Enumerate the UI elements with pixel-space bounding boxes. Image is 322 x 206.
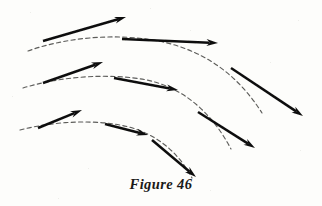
velocity-vectors-layer [38,17,303,177]
vector-1-1 [43,17,126,41]
vector-2-1-shaft [43,65,95,83]
vector-2-2 [114,78,178,91]
vector-2-3 [198,112,255,148]
vector-1-3 [231,68,303,116]
trajectory-curves-layer [20,37,262,178]
vector-2-3-shaft [198,112,248,144]
vector-1-2 [122,39,218,46]
vector-3-3 [152,140,196,177]
trajectory-3-dashed-curve [20,122,192,178]
vector-1-2-shaft [122,39,210,43]
figure-page: Figure 46 [0,0,322,206]
figure-caption: Figure 46 [0,176,322,193]
vector-3-1-shaft [38,113,74,128]
vector-1-1-shaft [43,19,118,41]
vector-3-2 [105,124,148,135]
vector-2-1 [43,62,103,83]
vector-1-3-shaft [231,68,296,111]
vector-3-3-shaft [152,140,190,172]
vector-3-1 [38,110,82,128]
